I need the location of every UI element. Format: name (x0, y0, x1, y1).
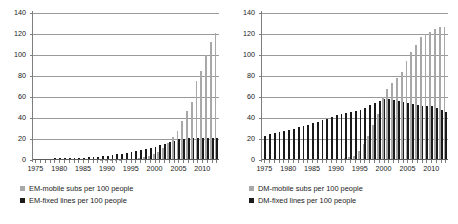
x-tick-label: 1995 (123, 165, 139, 173)
y-tick-label: 40 (247, 114, 255, 121)
bar-group (443, 13, 448, 160)
y-tick-label: 120 (14, 30, 26, 37)
legend-label: EM-fixed lines per 100 people (29, 196, 127, 205)
y-tick-label: 20 (247, 135, 255, 142)
chart-panel-em: 020406080100120140 197519801985199019952… (0, 0, 229, 224)
dual-bar-chart-figure: 020406080100120140 197519801985199019952… (0, 0, 458, 224)
x-tick-label: 1980 (280, 165, 296, 173)
bar-group (214, 13, 219, 160)
legend-label: DM-fixed lines per 100 people (258, 196, 356, 205)
x-tick-label: 1985 (304, 165, 320, 173)
x-tick-marks-dm (262, 160, 448, 163)
square-gray-icon (249, 186, 254, 191)
y-tick-label: 0 (251, 156, 255, 163)
bars-container-dm (262, 13, 448, 160)
y-tick-label: 80 (18, 72, 26, 79)
bar-series-em (33, 13, 219, 160)
y-tick-label: 100 (14, 51, 26, 58)
y-tick-label: 120 (243, 30, 255, 37)
x-tick-label: 1985 (75, 165, 91, 173)
bar-fixed (445, 112, 447, 160)
bar-fixed (216, 138, 218, 160)
x-tick-label: 2010 (194, 165, 210, 173)
plot-area-em: 020406080100120140 197519801985199019952… (0, 0, 229, 180)
x-axis-em: 19751980198519901995200020052010 (33, 160, 219, 178)
square-gray-icon (20, 186, 25, 191)
legend-label: EM-mobile subs per 100 people (29, 184, 133, 193)
square-black-icon (20, 198, 25, 203)
y-tick-label: 140 (14, 9, 26, 16)
x-tick-label: 1975 (256, 165, 272, 173)
y-tick-label: 60 (247, 93, 255, 100)
y-tick-label: 100 (243, 51, 255, 58)
y-tick-label: 80 (247, 72, 255, 79)
x-tick-label: 2005 (399, 165, 415, 173)
legend-item: DM-fixed lines per 100 people (249, 196, 454, 205)
legend-item: EM-mobile subs per 100 people (20, 184, 225, 193)
x-tick-label: 1995 (352, 165, 368, 173)
x-axis-dm: 19751980198519901995200020052010 (262, 160, 448, 178)
y-axis-labels-em: 020406080100120140 (0, 0, 30, 180)
x-tick-label: 2000 (147, 165, 163, 173)
x-tick-marks-em (33, 160, 219, 163)
legend-item: EM-fixed lines per 100 people (20, 196, 225, 205)
legend-dm: DM-mobile subs per 100 people DM-fixed l… (249, 184, 454, 207)
legend-item: DM-mobile subs per 100 people (249, 184, 454, 193)
bars-container-em (33, 13, 219, 160)
y-tick-label: 40 (18, 114, 26, 121)
y-tick-label: 140 (243, 9, 255, 16)
x-tick-label: 1990 (99, 165, 115, 173)
x-tick-label: 1990 (328, 165, 344, 173)
legend-em: EM-mobile subs per 100 people EM-fixed l… (20, 184, 225, 207)
x-tick-mark (214, 160, 219, 163)
bar-series-dm (262, 13, 448, 160)
y-tick-label: 60 (18, 93, 26, 100)
y-tick-label: 20 (18, 135, 26, 142)
square-black-icon (249, 198, 254, 203)
legend-label: DM-mobile subs per 100 people (258, 184, 363, 193)
plot-area-dm: 020406080100120140 197519801985199019952… (229, 0, 458, 180)
x-tick-label: 1980 (51, 165, 67, 173)
x-tick-label: 2005 (170, 165, 186, 173)
x-tick-label: 1975 (27, 165, 43, 173)
x-tick-mark (443, 160, 448, 163)
chart-panel-dm: 020406080100120140 197519801985199019952… (229, 0, 458, 224)
y-axis-labels-dm: 020406080100120140 (229, 0, 259, 180)
x-tick-label: 2000 (376, 165, 392, 173)
y-tick-label: 0 (22, 156, 26, 163)
x-tick-label: 2010 (423, 165, 439, 173)
